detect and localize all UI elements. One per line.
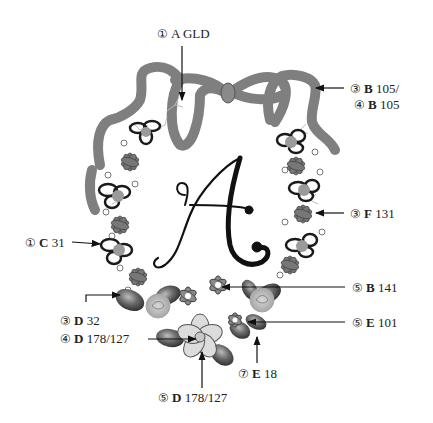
thread-code: 105 xyxy=(380,97,400,112)
callout-c-31: ①C 31 xyxy=(25,236,65,250)
bottom-floral-cluster xyxy=(112,276,284,370)
thread-code: GLD xyxy=(183,26,210,41)
step-number: ⑤ xyxy=(158,391,169,405)
thread-code: 141 xyxy=(378,280,398,295)
twigs xyxy=(112,97,318,204)
thread-code: 32 xyxy=(87,313,100,328)
step-number: ④ xyxy=(60,332,71,346)
callout-a-gld: ①A GLD xyxy=(157,27,210,41)
monogram-letter-a xyxy=(154,158,268,267)
thread-letter: B xyxy=(368,97,377,112)
step-number: ⑤ xyxy=(352,281,363,295)
callout-d-32: ③D 32 xyxy=(60,314,100,328)
step-number: ③ xyxy=(350,207,361,221)
bow-knot xyxy=(221,83,235,103)
callout-b-141: ⑤B 141 xyxy=(352,281,397,295)
step-number: ⑤ xyxy=(352,316,363,330)
thread-code: 101 xyxy=(378,315,398,330)
thread-letter: D xyxy=(74,331,83,346)
callout-d-178-127-step5: ⑤D 178/127 xyxy=(158,391,227,405)
step-number: ④ xyxy=(354,98,365,112)
callout-b-105-step3: ③B 105/ xyxy=(350,82,399,96)
thread-code: 131 xyxy=(375,206,395,221)
step-number: ③ xyxy=(60,314,71,328)
step-number: ③ xyxy=(350,82,361,96)
thread-letter: E xyxy=(252,366,261,381)
thread-letter: A xyxy=(171,26,180,41)
thread-letter: D xyxy=(172,390,181,405)
step-number: ① xyxy=(25,236,36,250)
thread-code: 105/ xyxy=(376,81,399,96)
callout-f-131: ③F 131 xyxy=(350,207,395,221)
thread-code: 178/127 xyxy=(87,331,130,346)
thread-letter: B xyxy=(364,81,373,96)
left-wreath xyxy=(99,121,160,293)
thread-code: 18 xyxy=(264,366,277,381)
thread-code: 31 xyxy=(52,235,65,250)
thread-code: 178/127 xyxy=(185,390,228,405)
thread-letter: C xyxy=(39,235,48,250)
callout-e-101: ⑤E 101 xyxy=(352,316,397,330)
callout-d-178-127-step4: ④D 178/127 xyxy=(60,332,129,346)
step-number: ⑦ xyxy=(238,367,249,381)
thread-letter: E xyxy=(366,315,375,330)
callout-b-105-step4: ④B 105 xyxy=(354,98,399,112)
step-number: ① xyxy=(157,27,168,41)
callout-e-18: ⑦E 18 xyxy=(238,367,277,381)
thread-letter: F xyxy=(364,206,372,221)
thread-letter: B xyxy=(366,280,375,295)
thread-letter: D xyxy=(74,313,83,328)
